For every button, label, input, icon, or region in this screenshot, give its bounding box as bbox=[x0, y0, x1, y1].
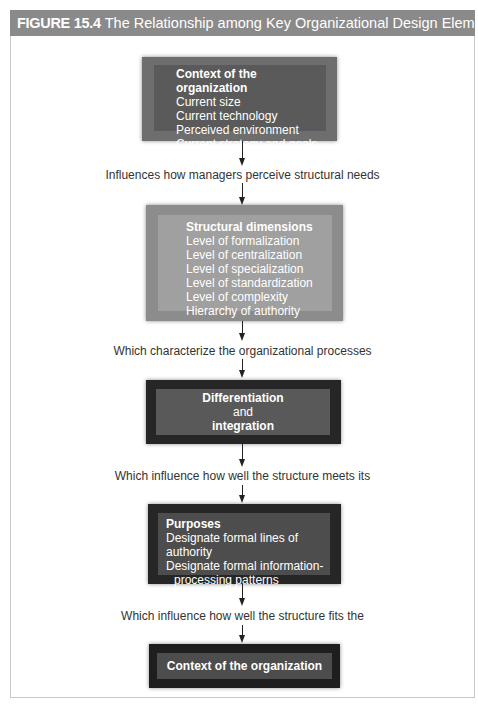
box-heading: Purposes bbox=[166, 517, 330, 531]
box-item: Level of standardization bbox=[186, 276, 332, 290]
structural-dimensions-box: Structural dimensions Level of formaliza… bbox=[146, 205, 343, 321]
box-heading: Context of the organization bbox=[176, 67, 326, 95]
figure-number: FIGURE 15.4 bbox=[17, 15, 101, 31]
box-connector-word: and bbox=[156, 405, 330, 419]
arrow-down-icon bbox=[239, 635, 245, 643]
box-heading: Context of the organization bbox=[157, 653, 332, 679]
box-item: Level of centralization bbox=[186, 248, 332, 262]
context-outcome-box: Context of the organization bbox=[149, 644, 340, 688]
flow-caption: Which influence how well the structure f… bbox=[10, 609, 475, 623]
context-box-inner: Context of the organization Current size… bbox=[154, 65, 326, 131]
structural-dimensions-inner: Structural dimensions Level of formaliza… bbox=[158, 215, 332, 311]
box-item: Current technology bbox=[176, 109, 326, 123]
purposes-box: Purposes Designate formal lines of autho… bbox=[148, 504, 341, 584]
arrow-down-icon bbox=[239, 370, 245, 378]
box-item: Hierarchy of authority bbox=[186, 304, 332, 318]
box-item: Level of complexity bbox=[186, 290, 332, 304]
connector-line bbox=[242, 444, 243, 460]
figure-header: FIGURE 15.4The Relationship among Key Or… bbox=[10, 10, 475, 36]
context-box: Context of the organization Current size… bbox=[142, 57, 337, 141]
arrow-down-icon bbox=[239, 197, 245, 205]
context-outcome-inner: Context of the organization bbox=[157, 653, 332, 679]
arrow-down-icon bbox=[239, 459, 245, 467]
arrow-down-icon bbox=[239, 598, 245, 606]
flow-caption: Which characterize the organizational pr… bbox=[10, 344, 475, 358]
box-item: Perceived environment bbox=[176, 123, 326, 137]
arrow-down-icon bbox=[239, 333, 245, 341]
box-item: processing patterns bbox=[166, 573, 330, 587]
arrow-down-icon bbox=[239, 158, 245, 166]
box-heading-secondary: integration bbox=[156, 419, 330, 433]
purposes-inner: Purposes Designate formal lines of autho… bbox=[158, 513, 330, 575]
differentiation-integration-inner: Differentiation and integration bbox=[156, 389, 330, 435]
box-item: Designate formal information- bbox=[166, 559, 330, 573]
box-item: Current strategy and goals bbox=[176, 137, 326, 151]
box-item: Designate formal lines of authority bbox=[166, 531, 330, 559]
flow-caption: Influences how managers perceive structu… bbox=[10, 168, 475, 182]
box-item: Level of specialization bbox=[186, 262, 332, 276]
differentiation-integration-box: Differentiation and integration bbox=[146, 380, 341, 444]
box-heading: Differentiation bbox=[156, 391, 330, 405]
box-heading: Structural dimensions bbox=[186, 220, 332, 234]
arrow-down-icon bbox=[239, 495, 245, 503]
connector-line bbox=[242, 183, 243, 197]
flow-caption: Which influence how well the structure m… bbox=[10, 469, 475, 483]
box-item: Current size bbox=[176, 95, 326, 109]
box-item: Level of formalization bbox=[186, 234, 332, 248]
figure-title: The Relationship among Key Organizationa… bbox=[105, 15, 478, 31]
